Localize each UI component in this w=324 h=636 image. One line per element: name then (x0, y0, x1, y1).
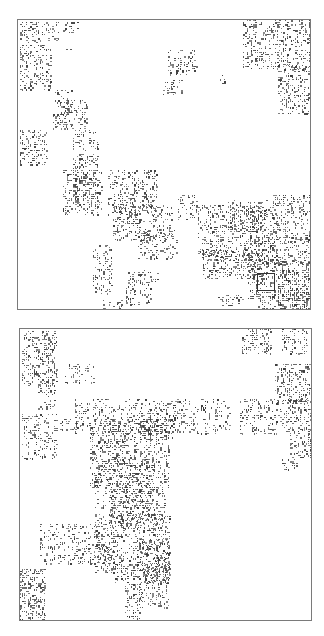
lattice-panel-bottom (19, 328, 312, 621)
cluster-pattern-top (18, 20, 310, 309)
highlight-square-marker (257, 273, 275, 291)
cluster-pattern-bottom (20, 329, 311, 620)
lattice-panel-top (17, 19, 311, 310)
